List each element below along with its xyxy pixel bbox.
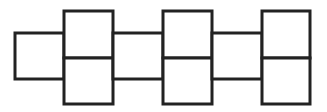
pair-1-top xyxy=(64,11,113,58)
pair-2-top xyxy=(163,11,212,58)
square-net-diagram xyxy=(0,0,327,112)
pair-3-top xyxy=(262,11,310,58)
single-square-1 xyxy=(15,33,64,79)
single-square-3 xyxy=(212,33,262,79)
pair-3-bottom xyxy=(262,58,310,104)
single-square-2 xyxy=(113,33,163,79)
pair-1-bottom xyxy=(64,58,113,104)
pair-2-bottom xyxy=(163,58,212,104)
